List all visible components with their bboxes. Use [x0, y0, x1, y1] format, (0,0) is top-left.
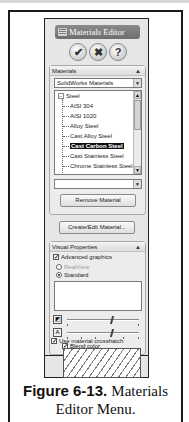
tree-item[interactable]: Alloy Steel	[55, 121, 141, 131]
materials-editor-panel: Materials Editor ✔ ✖ ? Materials ▲ Solid…	[44, 18, 149, 356]
tree-scrollbar[interactable]: ▲ ▼	[133, 91, 141, 174]
appearance-preview	[54, 281, 142, 311]
tree-item-label: Alloy Steel	[70, 123, 98, 129]
radio-selected-icon[interactable]	[56, 272, 62, 278]
checkbox-checked-icon[interactable]: ✓	[51, 338, 57, 344]
action-buttons: ✔ ✖ ?	[69, 43, 129, 61]
tree-item[interactable]: Galvanized Steel	[55, 171, 141, 175]
scroll-down-icon[interactable]: ▼	[134, 166, 141, 174]
tree-item-label: AISI 304	[70, 103, 93, 109]
tick	[138, 337, 139, 339]
standard-radio[interactable]: Standard	[56, 271, 88, 280]
tick	[138, 324, 139, 326]
scroll-thumb[interactable]	[134, 100, 141, 130]
material-tree[interactable]: −Steel AISI 304 AISI 1020 Alloy Steel Ca…	[54, 90, 142, 175]
collapse-icon[interactable]: ▲	[135, 242, 141, 252]
materials-icon	[58, 28, 67, 36]
panel-title: Materials Editor	[69, 27, 124, 37]
radio-label: RealView	[64, 264, 89, 270]
tree-item[interactable]: AISI 1020	[55, 111, 141, 121]
crosshatch-preview	[63, 348, 141, 378]
materials-group: Materials ▲ SolidWorks Materials ▼ −Stee…	[49, 65, 146, 215]
radio-icon[interactable]	[56, 264, 62, 270]
shininess-icon: ◩	[53, 315, 62, 324]
remove-material-button[interactable]: Remove Material	[60, 194, 136, 207]
slider-thumb[interactable]	[110, 329, 114, 337]
tree-item[interactable]: AISI 304	[55, 101, 141, 111]
tree-item-label: AISI 1020	[70, 113, 96, 119]
slider-thumb[interactable]	[110, 316, 114, 324]
panel-title-bar: Materials Editor	[55, 25, 140, 39]
tree-item-label: Cast Alloy Steel	[70, 133, 112, 139]
figure-caption: Figure 6-13. Materials Editor Menu.	[10, 382, 181, 418]
tree-item-label: Cast Stainless Steel	[70, 153, 124, 159]
tree-item[interactable]: Cast Stainless Steel	[55, 151, 141, 161]
chevron-down-icon[interactable]: ▼	[133, 79, 141, 87]
checkbox-checked-icon[interactable]: ✓	[53, 254, 59, 260]
tree-node-steel[interactable]: −Steel	[55, 91, 141, 101]
visual-properties-header[interactable]: Visual Properties ▲	[50, 242, 145, 252]
transparency-icon: A	[53, 328, 62, 337]
checkbox-label: Use material crosshatch	[59, 338, 123, 344]
tree-item-label: Chrome Stainless Steel	[70, 163, 133, 169]
materials-group-header[interactable]: Materials ▲	[50, 66, 145, 76]
cancel-button[interactable]: ✖	[89, 43, 107, 61]
caption-label: Figure 6-13.	[23, 382, 107, 399]
create-edit-material-button[interactable]: Create/Edit Material...	[59, 221, 135, 234]
help-button[interactable]: ?	[109, 43, 127, 61]
material-library-value: SolidWorks Materials	[57, 80, 113, 86]
checkbox-label: Advanced graphics	[61, 254, 112, 260]
materials-group-title: Materials	[52, 68, 76, 74]
tree-item[interactable]: Cast Alloy Steel	[55, 131, 141, 141]
visual-properties-title: Visual Properties	[52, 244, 97, 250]
use-material-crosshatch-checkbox[interactable]: ✓Use material crosshatch	[51, 337, 123, 346]
secondary-select[interactable]: ▼	[54, 179, 142, 189]
top-rule	[0, 0, 189, 3]
scroll-up-icon[interactable]: ▲	[134, 91, 141, 99]
tree-item-label: Galvanized Steel	[70, 173, 115, 175]
tree-node-label: Steel	[66, 93, 80, 99]
tick	[67, 324, 68, 326]
advanced-graphics-checkbox[interactable]: ✓Advanced graphics	[53, 253, 112, 262]
ok-button[interactable]: ✔	[69, 43, 87, 61]
radio-label: Standard	[64, 272, 88, 278]
collapse-icon[interactable]: ▲	[135, 66, 141, 76]
transparency-slider[interactable]	[67, 332, 139, 334]
tree-item[interactable]: Chrome Stainless Steel	[55, 161, 141, 171]
material-library-select[interactable]: SolidWorks Materials ▼	[54, 78, 142, 88]
shininess-slider[interactable]	[67, 319, 139, 321]
tree-item-label: Cast Carbon Steel	[70, 143, 124, 149]
collapse-node-icon[interactable]: −	[58, 93, 64, 99]
shininess-slider-row: ◩	[53, 315, 143, 327]
chevron-down-icon[interactable]: ▼	[133, 180, 141, 188]
tree-item-selected[interactable]: Cast Carbon Steel	[55, 141, 141, 151]
